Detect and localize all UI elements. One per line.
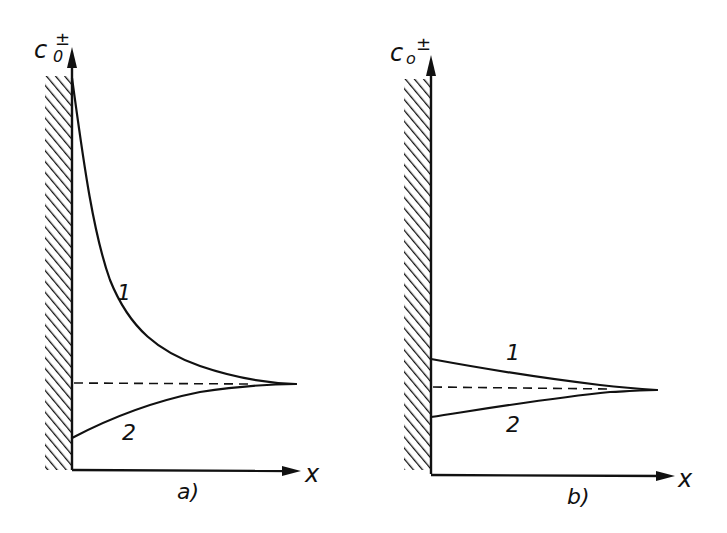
- y-axis-subscript-a: 0: [53, 47, 63, 66]
- y-axis-label-b: c: [390, 39, 403, 67]
- caption-b: b): [567, 484, 590, 509]
- wall-hatch-a: [45, 76, 71, 470]
- curve-2-b: [431, 390, 657, 417]
- bulk-reference-line-b: [433, 387, 610, 389]
- y-axis-superscript-a: ±: [55, 28, 70, 49]
- caption-a: a): [177, 479, 199, 504]
- x-axis-arrow-icon-a: [282, 466, 301, 476]
- y-axis-arrow-icon-b: [426, 55, 436, 76]
- x-axis-label-a: x: [304, 460, 320, 488]
- panel-a: 1 2 a) x c 0 ±: [34, 28, 320, 504]
- x-axis-a: [72, 470, 290, 471]
- x-axis-label-b: x: [677, 465, 693, 493]
- bulk-reference-line-a: [74, 383, 250, 384]
- y-axis-superscript-b: ±: [416, 33, 431, 54]
- y-axis-arrow-icon-a: [67, 47, 77, 68]
- curve-2-a: [72, 384, 296, 438]
- y-axis-subscript-b: o: [406, 49, 416, 68]
- diagram-canvas: 1 2 a) x c 0 ± 1 2 b) x c o ±: [0, 0, 727, 533]
- curve-1-b: [431, 359, 657, 390]
- curve-2-label-a: 2: [122, 420, 136, 445]
- x-axis-arrow-icon-b: [656, 471, 675, 481]
- curve-2-label-b: 2: [506, 412, 520, 437]
- curve-1-a: [72, 78, 296, 384]
- panel-b: 1 2 b) x c o ±: [390, 33, 693, 509]
- x-axis-b: [431, 475, 664, 476]
- curve-1-label-a: 1: [117, 280, 131, 305]
- curve-1-label-b: 1: [506, 340, 520, 365]
- y-axis-label-a: c: [34, 36, 47, 64]
- wall-hatch-b: [404, 79, 430, 470]
